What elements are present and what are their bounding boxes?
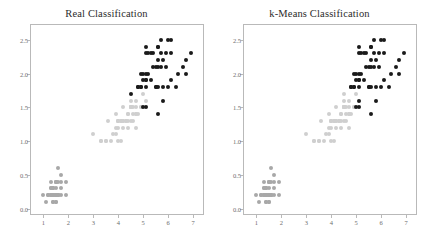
data-point [322, 139, 326, 143]
data-point [267, 180, 271, 184]
panel-kmeans-classification: k-Means Classification 0.00.51.01.52.02.… [213, 0, 426, 246]
data-point [151, 65, 155, 69]
data-point [337, 119, 341, 123]
data-point [131, 119, 135, 123]
data-point [51, 193, 55, 197]
data-point [272, 173, 276, 177]
panel-title-kmeans: k-Means Classification [213, 8, 426, 19]
data-point [369, 65, 373, 69]
data-point [264, 193, 268, 197]
data-point [106, 119, 110, 123]
data-point [169, 51, 173, 55]
data-point [369, 112, 373, 116]
data-point [397, 58, 401, 62]
data-point [111, 132, 115, 136]
data-point [342, 92, 346, 96]
data-point [189, 51, 193, 55]
data-point [342, 105, 346, 109]
x-tick-label: 1 [42, 219, 45, 226]
data-point [161, 85, 165, 89]
data-point [349, 85, 353, 89]
data-point [41, 193, 45, 197]
data-point [367, 85, 371, 89]
data-point [126, 126, 130, 130]
data-point [374, 58, 378, 62]
data-point [141, 78, 145, 82]
data-point [317, 139, 321, 143]
data-point [347, 126, 351, 130]
data-point [116, 126, 120, 130]
data-point [156, 58, 160, 62]
x-tick-mark [118, 214, 119, 218]
data-point [144, 85, 148, 89]
axes-frame-kmeans: 0.00.51.01.52.02.5 1234567 [243, 24, 417, 215]
data-point [312, 139, 316, 143]
x-tick-label: 6 [379, 219, 382, 226]
x-tick-label: 3 [92, 219, 95, 226]
data-point [339, 126, 343, 130]
data-point [121, 105, 125, 109]
axes-frame-real: 0.00.51.01.52.02.5 1234567 [30, 24, 204, 215]
y-tick-label: 2.5 [20, 36, 28, 43]
x-tick-mark [281, 214, 282, 218]
data-point [377, 65, 381, 69]
data-point [379, 85, 383, 89]
x-tick-label: 4 [330, 219, 333, 226]
x-tick-mark [93, 214, 94, 218]
data-point [134, 126, 138, 130]
x-tick-label: 2 [280, 219, 283, 226]
x-tick-label: 3 [305, 219, 308, 226]
x-tick-label: 7 [191, 219, 194, 226]
x-tick-label: 4 [117, 219, 120, 226]
data-point [372, 38, 376, 42]
scatter-plot-real [31, 25, 203, 214]
data-point [181, 65, 185, 69]
data-point [146, 51, 150, 55]
x-tick-mark [331, 214, 332, 218]
data-point [56, 166, 60, 170]
panel-title-real: Real Classification [0, 8, 213, 19]
y-tick-label: 1.0 [233, 138, 241, 145]
data-point [144, 105, 148, 109]
data-point [327, 112, 331, 116]
data-point [164, 65, 168, 69]
data-point [329, 126, 333, 130]
data-point [362, 78, 366, 82]
y-tick-label: 2.0 [20, 70, 28, 77]
data-point [357, 105, 361, 109]
data-point [332, 119, 336, 123]
x-tick-label: 7 [404, 219, 407, 226]
y-tick-label: 0.0 [233, 205, 241, 212]
figure-canvas: Real Classification 0.00.51.01.52.02.5 1… [0, 0, 426, 246]
data-point [144, 45, 148, 49]
data-point [264, 186, 268, 190]
x-tick-label: 2 [67, 219, 70, 226]
data-point [49, 180, 53, 184]
x-tick-label: 1 [255, 219, 258, 226]
data-point [369, 58, 373, 62]
data-point [136, 112, 140, 116]
data-point [126, 112, 130, 116]
data-point [382, 38, 386, 42]
data-point [54, 180, 58, 184]
x-tick-mark [43, 214, 44, 218]
data-point [134, 105, 138, 109]
data-point [139, 72, 143, 76]
data-point [44, 200, 48, 204]
y-tick-label: 2.5 [233, 36, 241, 43]
data-point [136, 85, 140, 89]
data-point [377, 51, 381, 55]
data-point [332, 139, 336, 143]
data-point [334, 126, 338, 130]
data-point [51, 200, 55, 204]
data-point [134, 99, 138, 103]
data-point [269, 166, 273, 170]
data-point [146, 72, 150, 76]
x-tick-label: 6 [166, 219, 169, 226]
data-point [369, 45, 373, 49]
data-point [374, 99, 378, 103]
data-point [357, 45, 361, 49]
panel-real-classification: Real Classification 0.00.51.01.52.02.5 1… [0, 0, 213, 246]
data-point [166, 85, 170, 89]
data-point [129, 92, 133, 96]
